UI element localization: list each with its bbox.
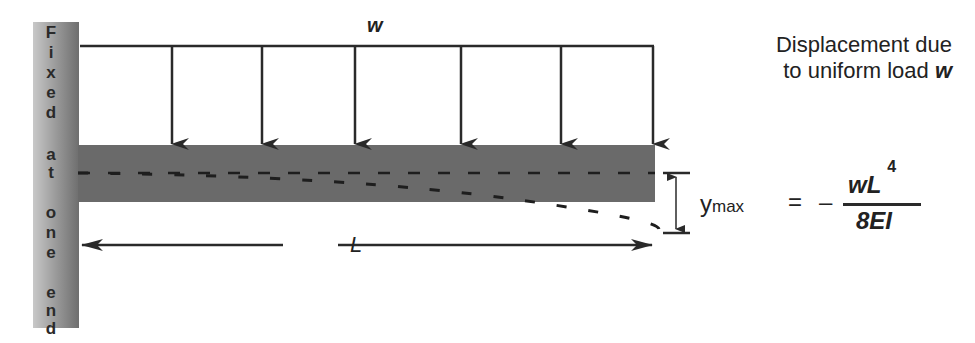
wall-letter: i — [33, 44, 69, 61]
diagram-title: Displacement due to uniform load w — [712, 32, 952, 84]
title-line-2-text: to uniform load — [783, 58, 935, 83]
formula-numerator-text: wL — [848, 171, 881, 198]
formula-denominator: 8EI — [856, 207, 892, 235]
wall-letter: d — [33, 104, 69, 121]
formula-exponent: 4 — [887, 158, 896, 175]
length-label: L — [350, 232, 362, 258]
wall-letter: n — [33, 224, 69, 241]
wall-label: F i x e d a t o n e e n d — [33, 22, 69, 328]
title-line-2: to uniform load w — [712, 58, 952, 84]
wall-letter: a — [33, 146, 69, 163]
formula-lhs: ymax — [700, 190, 744, 218]
formula-numerator: wL4 — [848, 170, 896, 199]
formula-sign: – — [819, 188, 832, 216]
wall-letter: x — [33, 64, 69, 81]
formula-y: y — [700, 190, 712, 217]
wall-letter: t — [33, 164, 69, 181]
load-label: w — [367, 14, 383, 37]
wall-letter: e — [33, 284, 69, 301]
title-load-symbol: w — [935, 58, 952, 83]
wall-letter: d — [33, 320, 69, 337]
load-arrows — [172, 46, 653, 144]
title-line-1: Displacement due — [712, 32, 952, 58]
wall-letter: F — [33, 24, 69, 41]
fraction-bar — [843, 203, 921, 206]
wall-letter: o — [33, 204, 69, 221]
wall-letter: e — [33, 84, 69, 101]
wall-letter: e — [33, 244, 69, 261]
wall-letter: n — [33, 302, 69, 319]
formula-equals: = — [788, 188, 802, 216]
formula-subscript: max — [712, 197, 744, 216]
